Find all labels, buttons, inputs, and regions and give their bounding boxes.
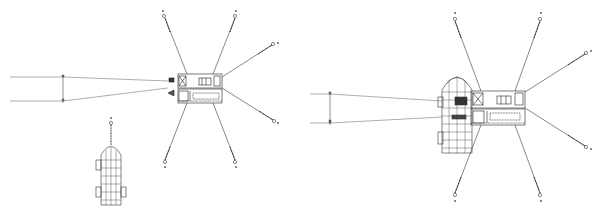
anchor-icon [453,12,456,20]
anchor-icon [584,145,591,149]
anchor-icon [163,160,166,167]
vessel [438,76,472,153]
stern-lines [10,75,168,103]
anchor-icon [538,193,541,201]
anchor-icon [538,12,541,20]
anchor-icon [272,119,278,123]
stern-lines [310,92,442,125]
mooring-diagram [0,0,602,219]
anchor-icon [233,10,236,17]
anchor-icon [453,193,456,201]
left-panel [10,10,279,205]
anchor-icon [584,50,591,54]
vessel [96,117,126,205]
mooring-lines [455,21,585,193]
right-panel [310,12,592,201]
barge [168,74,222,103]
barge [471,91,525,125]
anchor-icon [233,160,236,167]
anchor-icon [162,10,165,17]
anchor-icon [271,42,278,45]
anchors [453,12,591,201]
